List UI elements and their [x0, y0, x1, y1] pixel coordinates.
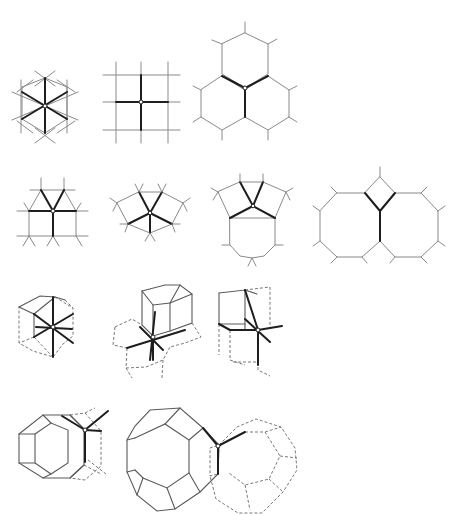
- tiling-488: [313, 167, 445, 263]
- vertex-marker: [151, 335, 155, 339]
- vertex-marker: [251, 204, 255, 208]
- vertex-marker: [43, 104, 47, 108]
- vertex-marker: [256, 328, 260, 332]
- vertex-marker: [243, 86, 247, 90]
- tiling-33434: [110, 184, 190, 241]
- square-tiling: [103, 62, 180, 143]
- hexagonal-prism-vertex: [19, 408, 108, 480]
- vertex-marker: [51, 325, 55, 329]
- vertex-marker: [139, 100, 143, 104]
- tiling-33344: [17, 178, 88, 246]
- cube-packing: [219, 287, 282, 376]
- diagram-canvas: [0, 0, 454, 515]
- hexagonal-tiling: [193, 22, 297, 140]
- vertex-marker: [216, 444, 220, 448]
- truncated-octahedra-packing: [127, 408, 297, 513]
- vertex-marker: [83, 428, 87, 432]
- hexagonal-prism-packing: [113, 285, 201, 378]
- tiling-3464: [211, 174, 293, 266]
- triangular-tiling: [12, 71, 78, 143]
- vertex-marker: [148, 211, 152, 215]
- rhombic-dodecahedra-packing: [19, 296, 73, 357]
- vertex-marker: [51, 209, 55, 213]
